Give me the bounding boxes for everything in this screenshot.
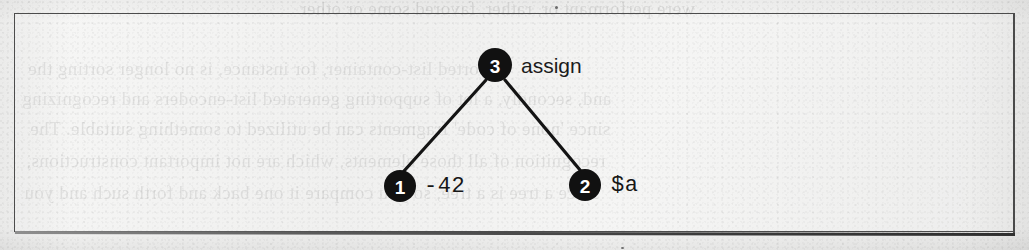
tree-node-3[interactable]: 3 [478,48,512,82]
tree-node-2[interactable]: 2 [569,169,601,201]
scanned-page: were performant or, rather, favored some… [0,0,1029,250]
node-3-number: 3 [490,56,501,77]
node-1-label: -42 [424,174,465,199]
tree-node-1[interactable]: 1 [384,170,416,202]
scan-speck [555,6,558,9]
edge-3-to-2 [505,80,580,170]
parse-tree-diagram: 3 1 2 [0,0,1029,250]
node-2-number: 2 [580,176,591,197]
tree-edges [404,80,580,171]
edge-3-to-1 [404,80,486,171]
node-3-label: assign [521,54,582,78]
node-1-number: 1 [395,177,406,198]
node-2-label: $a [611,173,638,198]
scan-speck [621,247,624,249]
